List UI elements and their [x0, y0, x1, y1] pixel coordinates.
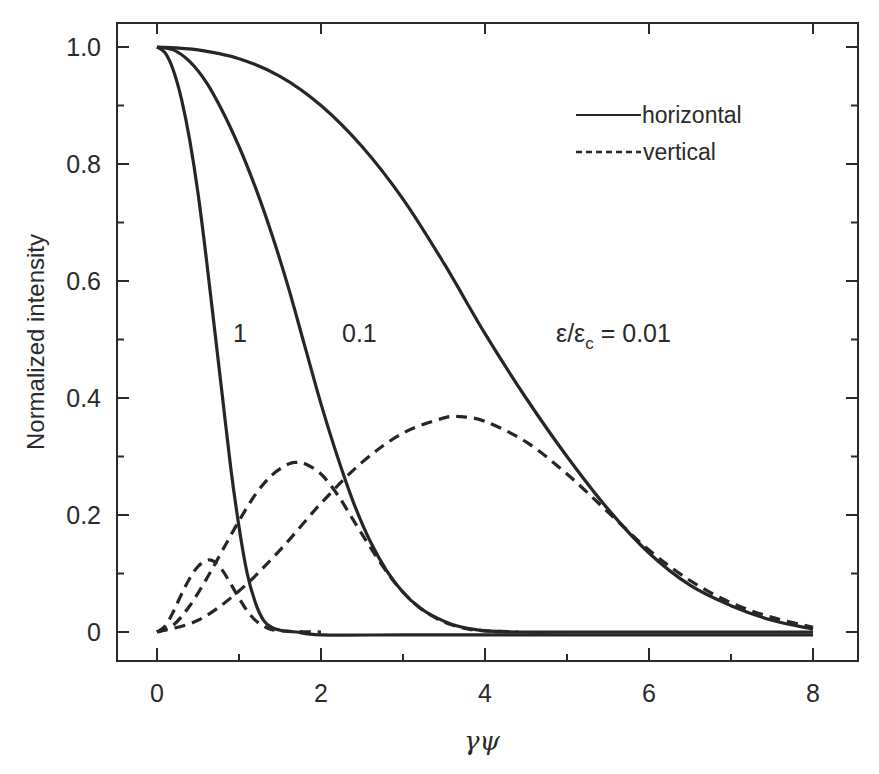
annotation-main: ε/ε	[556, 319, 585, 347]
legend: horizontal vertical	[576, 102, 742, 165]
x-tick-label: 6	[642, 679, 656, 707]
series-line-2	[157, 47, 813, 629]
series-line-3	[157, 560, 321, 632]
chart: 0246800.20.40.60.81.0 Normalized intensi…	[0, 0, 879, 774]
x-tick-label: 0	[150, 679, 164, 707]
x-tick-label: 2	[314, 679, 328, 707]
y-tick-label: 0.6	[66, 267, 101, 295]
annotation-curve-1: 1	[233, 319, 247, 347]
y-tick-label: 1.0	[66, 33, 101, 61]
axis-ticks	[117, 23, 858, 661]
x-axis-label: γψ	[464, 726, 501, 756]
annotation-tail: = 0.01	[594, 319, 671, 347]
x-tick-label: 8	[806, 679, 820, 707]
y-tick-label: 0.8	[66, 150, 101, 178]
y-tick-label: 0.2	[66, 501, 101, 529]
y-tick-label: 0	[87, 618, 101, 646]
plot-frame	[117, 23, 858, 661]
x-tick-label: 4	[478, 679, 492, 707]
legend-label-horizontal: horizontal	[642, 102, 742, 128]
curves	[157, 47, 813, 635]
series-line-1	[157, 47, 813, 632]
annotation-curve-0.1: 0.1	[342, 319, 377, 347]
legend-label-vertical: vertical	[643, 139, 716, 165]
annotation-curve-0.01: ε/εc = 0.01	[556, 319, 671, 353]
y-axis-label: Normalized intensity	[22, 234, 49, 450]
y-tick-label: 0.4	[66, 384, 101, 412]
series-line-0	[157, 47, 813, 635]
tick-labels: 0246800.20.40.60.81.0	[66, 33, 820, 707]
